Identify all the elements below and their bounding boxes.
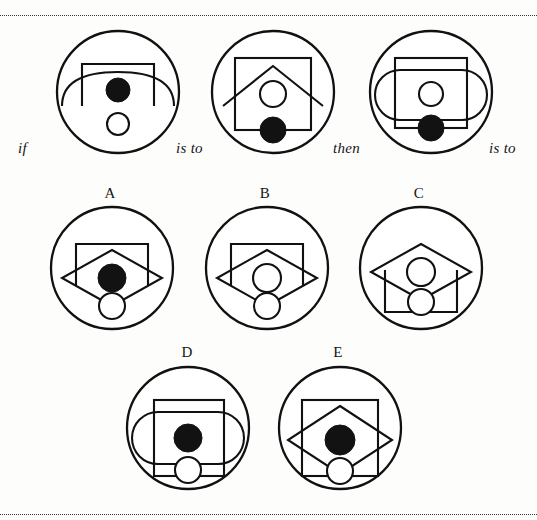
option-label-e: E xyxy=(318,344,358,361)
open-circle-center xyxy=(407,258,435,286)
prompt-figure-2[interactable] xyxy=(209,28,337,156)
filled-circle-lower xyxy=(260,117,286,143)
prompt-figure-3[interactable] xyxy=(367,28,495,156)
filled-circle-center xyxy=(98,264,126,292)
open-circle-center xyxy=(260,81,286,107)
option-figure-e[interactable] xyxy=(276,364,404,492)
option-figure-c[interactable] xyxy=(357,204,485,332)
option-label-d: D xyxy=(167,344,207,361)
option-label-c: C xyxy=(399,185,439,202)
filled-circle-center xyxy=(106,78,130,102)
puzzle-page: if is to then is to A B C xyxy=(0,0,537,520)
open-circle-center xyxy=(419,82,443,106)
connector-then: then xyxy=(333,140,360,157)
bottom-dotted-rule xyxy=(0,514,537,515)
top-dotted-rule xyxy=(0,15,537,16)
filled-circle-lower xyxy=(418,115,444,141)
option-figure-d[interactable] xyxy=(124,364,252,492)
prompt-figure-1[interactable] xyxy=(54,28,182,156)
open-circle-lower xyxy=(99,293,125,319)
connector-is-to-1: is to xyxy=(176,140,203,157)
open-circle-lower xyxy=(107,113,129,135)
option-label-b: B xyxy=(245,185,285,202)
filled-circle-center xyxy=(174,424,202,452)
open-circle-lower xyxy=(327,458,353,484)
option-figure-b[interactable] xyxy=(203,204,331,332)
open-circle-lower xyxy=(175,457,201,483)
option-label-a: A xyxy=(90,185,130,202)
open-circle-lower xyxy=(408,289,434,315)
open-circle-center xyxy=(253,264,281,292)
connector-if: if xyxy=(18,140,27,157)
filled-circle-center xyxy=(325,425,355,455)
option-figure-a[interactable] xyxy=(48,204,176,332)
open-circle-lower xyxy=(254,293,280,319)
connector-is-to-2: is to xyxy=(489,140,516,157)
